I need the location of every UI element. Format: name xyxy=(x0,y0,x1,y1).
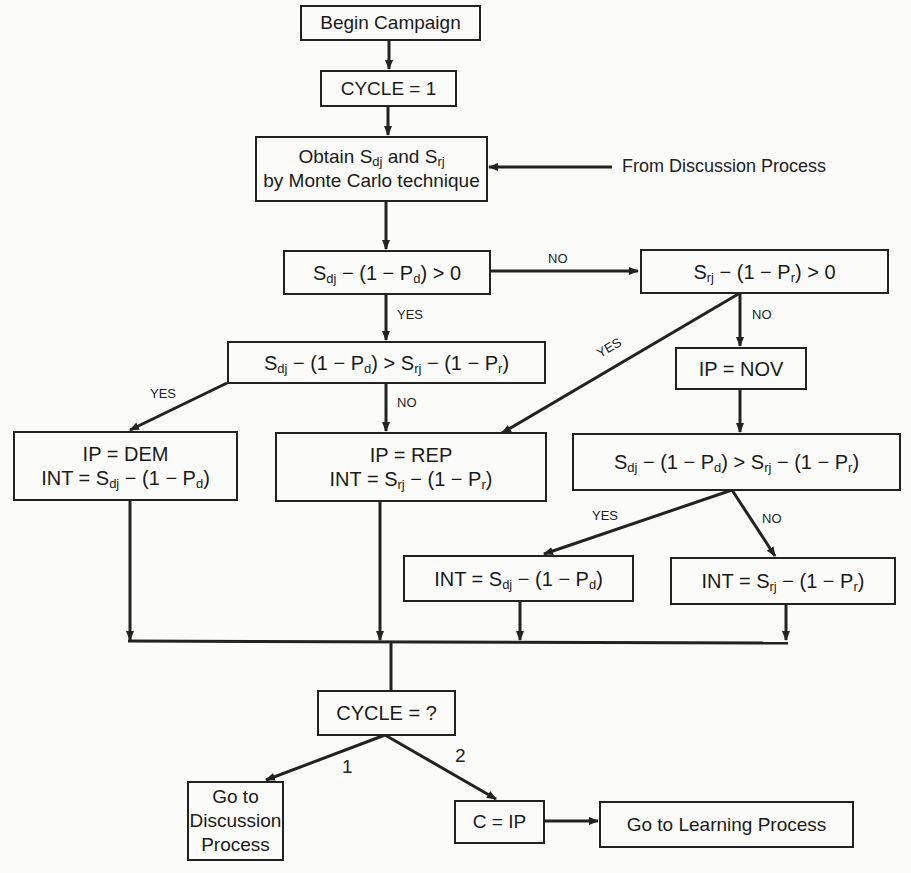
edge-label-yes-cond1: YES xyxy=(397,307,423,322)
obtain-line-2: by Monte Carlo technique xyxy=(263,169,480,193)
int-rep-node: INT = Srj − (1 − Pr) xyxy=(670,557,896,605)
decision-rep-positive: Srj − (1 − Pr) > 0 xyxy=(640,249,889,294)
ip-nov-node: IP = NOV xyxy=(675,347,807,390)
obtain-scores-node: Obtain Sdj and Srj by Monte Carlo techni… xyxy=(255,136,488,202)
int-dem-node: INT = Sdj − (1 − Pd) xyxy=(403,555,634,602)
from-discussion-process-label: From Discussion Process xyxy=(622,156,826,177)
decision-compare-left: Sdj − (1 − Pd) > Srj − (1 − Pr) xyxy=(227,341,546,384)
c-equals-ip-node: C = IP xyxy=(454,800,545,844)
obtain-line-1: Obtain Sdj and Srj xyxy=(298,145,444,169)
edge-label-no-cond3: NO xyxy=(397,395,417,410)
decision-compare-right: Sdj − (1 − Pd) > Srj − (1 − Pr) xyxy=(572,433,901,491)
ip-dem-node: IP = DEM INT = Sdj − (1 − Pd) xyxy=(13,431,238,501)
edge-label-yes-cond3: YES xyxy=(150,386,176,401)
ip-rep-line: IP = REP xyxy=(370,443,452,467)
edge-label-yes-cond4: YES xyxy=(592,508,618,523)
cycle-check-node: CYCLE = ? xyxy=(317,690,456,736)
edge-label-no-cond1: NO xyxy=(548,251,568,266)
begin-campaign-node: Begin Campaign xyxy=(300,5,481,41)
cycle-init-text: CYCLE = 1 xyxy=(341,77,437,101)
edge-label-no-cond2: NO xyxy=(752,307,772,322)
goto-learning-node: Go to Learning Process xyxy=(599,801,854,848)
edge-label-no-cond4: NO xyxy=(762,511,782,526)
ip-rep-node: IP = REP INT = Srj − (1 − Pr) xyxy=(275,432,547,502)
ip-dem-line: IP = DEM xyxy=(83,442,169,466)
goto-discussion-node: Go to Discussion Process xyxy=(187,781,284,861)
begin-campaign-text: Begin Campaign xyxy=(320,11,460,35)
int-dem-line: INT = Sdj − (1 − Pd) xyxy=(41,466,210,490)
int-rep-line: INT = Srj − (1 − Pr) xyxy=(330,467,493,491)
edge-label-branch-2: 2 xyxy=(455,745,466,767)
cycle-init-node: CYCLE = 1 xyxy=(320,70,457,107)
edge-label-branch-1: 1 xyxy=(342,756,353,778)
decision-dem-positive: Sdj − (1 − Pd) > 0 xyxy=(283,250,491,295)
